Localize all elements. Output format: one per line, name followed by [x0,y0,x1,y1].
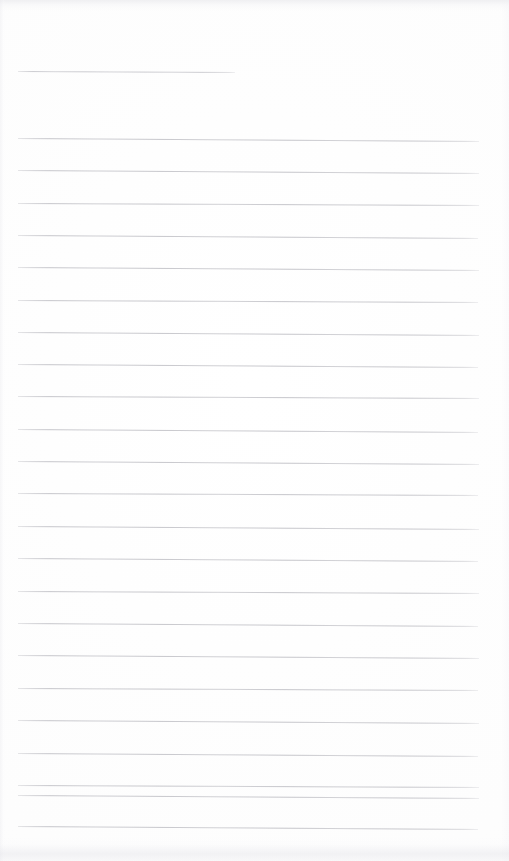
notebook-page [0,0,509,861]
writing-area[interactable] [0,0,509,861]
